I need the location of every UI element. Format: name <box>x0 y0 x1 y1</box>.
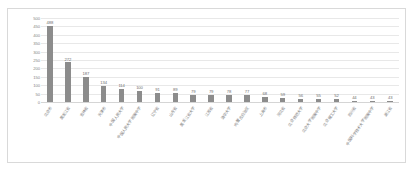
y-axis-tick: 0 <box>38 100 40 105</box>
x-axis-tick-label: 天津市 <box>97 106 107 118</box>
bar-column: 79 <box>184 18 202 102</box>
y-axis-tick: 450 <box>33 24 40 29</box>
y-axis-tick: 350 <box>33 41 40 46</box>
bar-value-label: 56 <box>298 93 302 98</box>
bar-value-label: 43 <box>370 95 374 100</box>
bar-column: 68 <box>256 18 274 102</box>
x-axis-tick-label: 辽宁省 <box>151 106 161 118</box>
x-axis-label-slot: 山东省 <box>166 104 184 156</box>
x-axis-label-slot: 上海市 <box>256 104 274 156</box>
bar-value-label: 78 <box>227 89 231 94</box>
y-axis-tick: 150 <box>33 74 40 79</box>
bar-column: 77 <box>238 18 256 102</box>
chart-frame: 500450400350300250200150100500 488272187… <box>7 8 406 163</box>
x-axis-label-slot: 北京理工大学 <box>328 104 346 156</box>
bar-value-label: 77 <box>245 89 249 94</box>
bar <box>387 101 393 102</box>
bar <box>137 91 143 102</box>
bar <box>352 101 358 102</box>
x-axis-tick-label: 北京市 <box>43 106 53 118</box>
bar-column: 78 <box>220 18 238 102</box>
bar-value-label: 79 <box>191 89 195 94</box>
y-axis-tick: 50 <box>36 91 40 96</box>
x-axis-tick-label: 浙江省 <box>384 106 394 118</box>
bar-column: 52 <box>328 18 346 102</box>
bar-value-label: 59 <box>281 92 285 97</box>
bar-column: 134 <box>95 18 113 102</box>
x-axis-labels: 北京市黑龙江省吉林省天津市中国人民大学中国人民大学附属中学辽宁省山东省黑龙江省大… <box>41 104 399 156</box>
bar <box>119 89 125 102</box>
bar <box>262 97 268 102</box>
x-axis-label-slot: 中国人民大学附属中学 <box>131 104 149 156</box>
bar <box>190 95 196 102</box>
x-axis-label-slot: 黑龙江省 <box>59 104 77 156</box>
bar <box>208 95 214 102</box>
bar-value-label: 91 <box>155 87 159 92</box>
bar-value-label: 488 <box>47 20 54 25</box>
bar-value-label: 114 <box>118 83 124 88</box>
bar-column: 43 <box>363 18 381 102</box>
bar <box>65 62 71 102</box>
x-axis-label-slot: 北京市 <box>41 104 59 156</box>
bar <box>173 93 179 102</box>
x-axis-label-slot: 河北省 <box>274 104 292 156</box>
bar-column: 91 <box>148 18 166 102</box>
bar <box>316 99 322 102</box>
bar <box>47 26 53 102</box>
bar-column: 187 <box>77 18 95 102</box>
x-axis-tick-label: 吉林省 <box>79 106 89 118</box>
x-axis-label-slot: 吉林省 <box>77 104 95 156</box>
x-axis-label-slot: 内蒙古自治区 <box>238 104 256 156</box>
bar-value-label: 272 <box>65 57 72 62</box>
x-axis-tick-label: 黑龙江省 <box>59 106 71 121</box>
bar-column: 44 <box>345 18 363 102</box>
bar <box>298 99 304 102</box>
bar-value-label: 68 <box>263 91 267 96</box>
x-axis-label-slot: 浙江省 <box>381 104 399 156</box>
bar-value-label: 79 <box>209 89 213 94</box>
bar <box>370 101 376 102</box>
x-axis-tick-label: 上海市 <box>258 106 268 118</box>
bar-column: 488 <box>41 18 59 102</box>
bar <box>83 77 89 102</box>
bar-column: 272 <box>59 18 77 102</box>
x-axis-tick-label: 江苏省 <box>204 106 214 118</box>
bar-column: 55 <box>310 18 328 102</box>
y-axis-tick: 100 <box>33 83 40 88</box>
bar <box>155 93 161 102</box>
y-axis-tick: 200 <box>33 66 40 71</box>
bar-value-label: 187 <box>82 71 89 76</box>
x-axis-label-slot: 黑龙江省大学 <box>184 104 202 156</box>
x-axis-label-slot: 中国科学技术大学附属中学 <box>363 104 381 156</box>
chart-plot-area: 500450400350300250200150100500 488272187… <box>8 9 405 162</box>
x-axis-label-slot: 清华大学 <box>220 104 238 156</box>
y-axis-tick: 300 <box>33 49 40 54</box>
bar-value-label: 55 <box>316 93 320 98</box>
y-axis-tick: 400 <box>33 32 40 37</box>
y-axis-tick: 250 <box>33 58 40 63</box>
bar <box>226 95 232 102</box>
x-axis-label-slot: 北京大学附属中学 <box>310 104 328 156</box>
bar <box>101 86 107 103</box>
bar <box>244 95 250 102</box>
x-axis-label-slot: 江苏省 <box>202 104 220 156</box>
bar-value-label: 43 <box>388 95 392 100</box>
x-axis-tick-label: 山东省 <box>169 106 179 118</box>
bar <box>334 99 340 102</box>
gridline <box>41 102 399 103</box>
bar-column: 59 <box>274 18 292 102</box>
y-axis: 500450400350300250200150100500 <box>18 18 40 102</box>
x-axis-label-slot: 辽宁省 <box>148 104 166 156</box>
x-axis-tick-label: 河北省 <box>276 106 286 118</box>
bar <box>280 98 286 102</box>
x-axis-tick-label: 四川省 <box>348 106 358 118</box>
bar-column: 56 <box>292 18 310 102</box>
x-axis-tick-label: 清华大学 <box>220 106 232 121</box>
bar-column: 89 <box>166 18 184 102</box>
bar-column: 100 <box>131 18 149 102</box>
bar-column: 43 <box>381 18 399 102</box>
bar-column: 114 <box>113 18 131 102</box>
bar-column: 79 <box>202 18 220 102</box>
x-axis-label-slot: 天津市 <box>95 104 113 156</box>
bar-value-label: 100 <box>136 85 143 90</box>
